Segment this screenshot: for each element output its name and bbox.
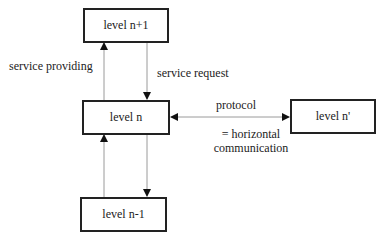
horizontal-communication-label: = horizontal communication — [198, 127, 304, 155]
service-providing-label: service providing — [9, 59, 93, 74]
box-label: level n+1 — [103, 18, 148, 33]
box-label: level n' — [316, 109, 350, 124]
box-label: level n-1 — [102, 207, 144, 222]
box-label: level n — [110, 110, 142, 125]
communication-line: communication — [198, 141, 304, 155]
box-level-n: level n — [82, 100, 170, 135]
box-level-n-plus-1: level n+1 — [83, 8, 169, 43]
service-request-label: service request — [157, 66, 229, 81]
horizontal-line: = horizontal — [198, 127, 304, 141]
box-level-n-minus-1: level n-1 — [80, 197, 167, 232]
protocol-label: protocol — [216, 98, 256, 113]
